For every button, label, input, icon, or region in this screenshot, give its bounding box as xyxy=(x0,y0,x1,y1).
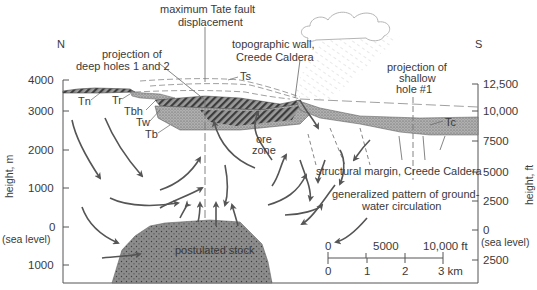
left-axis-ticks xyxy=(63,80,69,265)
left-axis-label: height, m xyxy=(3,155,15,198)
deep-holes-label-2: deep holes 1 and 2 xyxy=(76,60,170,72)
scale-km-1: 1 xyxy=(364,265,370,277)
left-tick-minus-1000: 1000 xyxy=(28,259,54,271)
unit-ts-label: Ts xyxy=(240,70,252,82)
topo-wall-label-1: topographic wall, xyxy=(232,38,315,50)
left-tick-2000: 2000 xyxy=(28,144,54,156)
right-tick-2500: 2500 xyxy=(483,195,509,207)
unit-tc-label: Tc xyxy=(445,116,457,128)
right-tick-12500: 12,500 xyxy=(483,78,518,90)
north-label: N xyxy=(57,38,65,50)
title-line-2: displacement xyxy=(178,16,243,28)
scale-ft-5000: 5000 xyxy=(373,240,399,252)
scale-ft-0: 0 xyxy=(325,240,331,252)
scale-km-3: 3 km xyxy=(438,265,463,277)
right-tick-5000: 5000 xyxy=(483,166,509,178)
scale-km-0: 0 xyxy=(325,265,331,277)
left-tick-sea-level: (sea level) xyxy=(2,233,50,245)
right-tick-10000: 10,000 xyxy=(483,105,518,117)
topo-wall-label-2: Creede Caldera xyxy=(236,51,315,63)
shallow-hole-label-3: hole #1 xyxy=(396,83,432,95)
scale-ft-10000: 10,000 ft xyxy=(423,240,469,252)
unit-tn xyxy=(63,88,135,93)
scale-km-2: 2 xyxy=(402,265,408,277)
scale-bar: 0 5000 10,000 ft 0 1 2 3 km xyxy=(325,240,469,277)
title-line-1: maximum Tate fault xyxy=(160,3,255,15)
right-tick-0: 0 xyxy=(483,224,489,236)
left-tick-3000: 3000 xyxy=(28,105,54,117)
right-tick-minus-2500: 2500 xyxy=(483,254,509,266)
south-label: S xyxy=(475,38,482,50)
right-tick-7500: 7500 xyxy=(483,135,509,147)
left-tick-0: 0 xyxy=(49,221,55,233)
groundwater-label-1: generalized pattern of ground- xyxy=(332,188,480,200)
cloud-icon xyxy=(301,12,389,41)
unit-tb-label: Tb xyxy=(145,128,158,140)
unit-tr-label: Tr xyxy=(112,94,122,106)
left-tick-4000: 4000 xyxy=(28,74,54,86)
stock-label: postulated stock xyxy=(175,244,255,256)
ore-zone-label-2: zone xyxy=(252,144,276,156)
right-tick-sea-level: (sea level) xyxy=(481,236,529,248)
groundwater-label-2: water circulation xyxy=(361,200,441,212)
left-tick-1000: 1000 xyxy=(28,182,54,194)
unit-tn-label: Tn xyxy=(78,95,91,107)
structural-margin-label: structural margin, Creede Caldera xyxy=(316,165,483,177)
unit-tw-label: Tw xyxy=(136,116,150,128)
deep-holes-label-1: projection of xyxy=(102,48,163,60)
geologic-cross-section: maximum Tate fault displacement N S proj… xyxy=(0,0,537,290)
right-axis-label: height, ft xyxy=(523,165,535,205)
